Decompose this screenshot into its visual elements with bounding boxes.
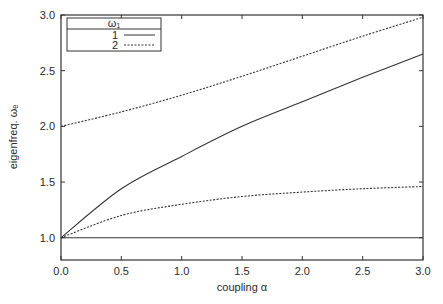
x-tick-label: 1.0	[174, 265, 189, 277]
eigenfrequency-chart: 0.00.51.01.52.02.53.0 1.01.52.02.53.0 co…	[0, 0, 443, 304]
x-tick-label: 2.0	[295, 265, 310, 277]
y-tick-label: 1.5	[40, 176, 55, 188]
legend-entry-2-label: 2	[112, 39, 118, 51]
legend: ω₁ 1 2	[67, 17, 161, 51]
y-tick-label: 2.5	[40, 65, 55, 77]
x-axis-label: coupling α	[217, 281, 268, 293]
x-tick-label: 2.5	[355, 265, 370, 277]
x-tick-label: 0.0	[53, 265, 68, 277]
x-tick-label: 3.0	[415, 265, 430, 277]
series-2-lower	[61, 187, 423, 238]
series-1-upper	[61, 54, 423, 238]
y-axis-label: eigenfreq. ωₑ	[7, 105, 19, 170]
x-tick-label: 0.5	[114, 265, 129, 277]
plot-border	[61, 15, 423, 260]
y-tick-label: 3.0	[40, 9, 55, 21]
plot-frame	[61, 15, 423, 260]
y-tick-label: 2.0	[40, 120, 55, 132]
y-tick-label: 1.0	[40, 232, 55, 244]
x-tick-label: 1.5	[234, 265, 249, 277]
legend-title: ω₁	[108, 17, 121, 29]
